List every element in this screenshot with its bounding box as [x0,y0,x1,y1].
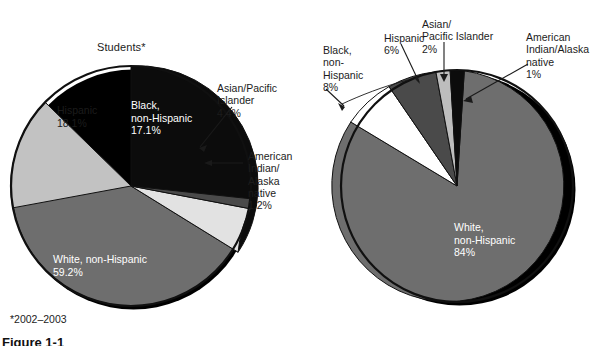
figure-root: Students* [0,0,608,346]
students-pie-panel: Students* [0,0,304,346]
students-callout-asian: Asian/Pacific Islander 4.4% [217,82,303,119]
students-label-hispanic: Hispanic 18.1% [57,104,147,129]
teachers-callout-amerindian: American Indian/Alaska native 1% [526,31,608,80]
teachers-callout-asian: Asian/ Pacific Islander 2% [422,18,498,55]
students-label-white: White, non-Hispanic 59.2% [53,253,213,278]
teachers-label-white: White, non-Hispanic 84% [454,221,564,259]
students-footnote: *2002–2003 [10,313,67,325]
students-callout-amerindian: American Indian/ Alaska native 1.2% [248,150,310,211]
teachers-pie-panel: Teachers* [304,0,608,346]
teachers-callout-blacknh: Black, non- Hispanic 8% [323,44,393,93]
figure-caption: Figure 1-1 [2,335,64,346]
